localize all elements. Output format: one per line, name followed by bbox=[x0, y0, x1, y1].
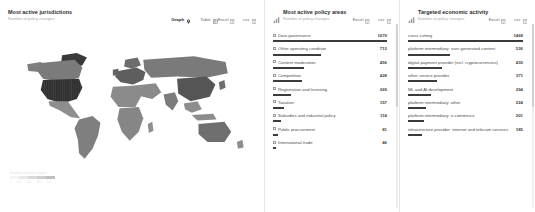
bar-row: Subsidies and industrial policy114 bbox=[273, 113, 387, 119]
map-svg bbox=[8, 32, 256, 182]
legend-square-icon bbox=[273, 34, 276, 37]
region-united-states bbox=[41, 79, 83, 104]
region-new-zealand bbox=[237, 140, 244, 149]
legend-swatch-0 bbox=[10, 176, 19, 179]
bar-fill bbox=[273, 147, 276, 149]
legend-square-icon bbox=[273, 114, 276, 117]
bar-item[interactable]: digital payment provider (incl. cryptocu… bbox=[408, 60, 523, 69]
bar-item[interactable]: Other operating condition713 bbox=[273, 46, 387, 55]
bar-item[interactable]: Registration and licensing269 bbox=[273, 87, 387, 96]
bar-value: 81 bbox=[382, 127, 387, 133]
bar-track bbox=[408, 40, 523, 42]
bar-label: digital payment provider (incl. cryptocu… bbox=[408, 60, 513, 66]
bar-label: platform intermediary: user-generated co… bbox=[408, 46, 513, 52]
policy-area-bar-list[interactable]: Data governance1679Other operating condi… bbox=[273, 33, 391, 212]
bar-label: Competition bbox=[273, 73, 377, 79]
bar-label: Registration and licensing bbox=[273, 87, 377, 93]
bar-fill bbox=[273, 67, 304, 69]
export-csv-button-map[interactable]: csv bbox=[243, 10, 256, 28]
legend-square-icon bbox=[273, 127, 276, 130]
csv-icon bbox=[523, 10, 528, 28]
bar-value: 430 bbox=[516, 60, 523, 66]
bar-label: cross cutting bbox=[408, 33, 510, 39]
view-toggle-group: Graph Table bbox=[171, 10, 217, 28]
bar-track bbox=[273, 67, 387, 69]
world-choropleth-map[interactable]: Number of policy changes 0 200 400 600 8… bbox=[8, 32, 256, 182]
bar-item[interactable]: cross cutting1468 bbox=[408, 33, 523, 42]
excel-icon bbox=[501, 10, 506, 28]
export-excel-label-map: Excel bbox=[218, 17, 229, 22]
region-north-africa bbox=[111, 86, 141, 107]
bar-value: 536 bbox=[516, 46, 523, 52]
tab-graph-view[interactable]: Graph bbox=[171, 10, 191, 28]
export-csv-button-policy[interactable]: csv bbox=[378, 10, 391, 28]
legend-square-icon bbox=[273, 74, 276, 77]
legend-title-row: Number of policy changes bbox=[10, 171, 55, 175]
region-subsaharan-africa bbox=[117, 107, 143, 141]
economic-activity-bar-list[interactable]: cross cutting1468platform intermediary: … bbox=[408, 33, 527, 212]
export-excel-button-econ[interactable]: Excel bbox=[489, 10, 506, 28]
bar-track bbox=[273, 40, 387, 42]
map-panel-header: Most active jurisdictions Number of poli… bbox=[8, 9, 256, 28]
bar-item[interactable]: Competition428 bbox=[273, 73, 387, 82]
bar-item[interactable]: Data governance1679 bbox=[273, 33, 387, 42]
panel-most-active-policy-areas: Most active policy areas Number of polic… bbox=[264, 0, 399, 212]
policy-export-group: Excel csv bbox=[353, 9, 391, 28]
bar-item[interactable]: platform intermediary: user-generated co… bbox=[408, 46, 523, 55]
legend-swatch-3 bbox=[37, 176, 46, 179]
bar-item[interactable]: ML and AI development294 bbox=[408, 87, 523, 96]
legend-swatch-4 bbox=[46, 176, 55, 179]
legend-tick-labels: 0 200 400 600 800 bbox=[10, 180, 55, 184]
export-csv-label-map: csv bbox=[243, 17, 250, 22]
bar-item[interactable]: platform intermediary: e-commerce201 bbox=[408, 113, 523, 122]
bar-item[interactable]: platform intermediary: other224 bbox=[408, 100, 523, 109]
bar-item[interactable]: Taxation157 bbox=[273, 100, 387, 109]
legend-tick-4: 800 bbox=[47, 180, 52, 184]
dashboard: Most active jurisdictions Number of poli… bbox=[0, 0, 535, 212]
export-csv-label-policy: csv bbox=[378, 17, 385, 22]
bar-fill bbox=[273, 40, 387, 42]
econ-scrollbar[interactable] bbox=[532, 24, 534, 208]
region-madagascar bbox=[148, 122, 154, 133]
legend-tick-1: 200 bbox=[17, 180, 22, 184]
bar-fill bbox=[408, 120, 424, 122]
bar-track bbox=[273, 94, 387, 96]
bar-label: other service provider bbox=[408, 73, 513, 79]
region-europe bbox=[115, 68, 145, 85]
bar-item[interactable]: other service provider371 bbox=[408, 73, 523, 82]
region-japan bbox=[219, 80, 226, 90]
bar-fill bbox=[273, 80, 302, 82]
legend-square-icon bbox=[273, 141, 276, 144]
tab-table-view[interactable]: Table bbox=[200, 10, 218, 28]
bar-track bbox=[273, 54, 387, 56]
region-mexico bbox=[49, 101, 81, 118]
econ-panel-title: Targeted economic activity bbox=[418, 9, 489, 16]
bar-row: Taxation157 bbox=[273, 100, 387, 106]
map-title-block: Most active jurisdictions Number of poli… bbox=[8, 9, 153, 22]
policy-scrollbar[interactable] bbox=[396, 24, 398, 208]
legend-swatch-1 bbox=[19, 176, 28, 179]
export-csv-button-econ[interactable]: csv bbox=[514, 10, 527, 28]
export-excel-button-policy[interactable]: Excel bbox=[353, 10, 370, 28]
legend-tick-0: 0 bbox=[10, 180, 12, 184]
econ-panel-header: Targeted economic activity Number of pol… bbox=[408, 9, 527, 28]
excel-icon bbox=[365, 10, 370, 28]
bar-label: infrastructure provider: internet and te… bbox=[408, 127, 513, 133]
policy-scrollbar-thumb[interactable] bbox=[396, 24, 398, 107]
bar-item[interactable]: infrastructure provider: internet and te… bbox=[408, 127, 523, 136]
bar-item[interactable]: Subsidies and industrial policy114 bbox=[273, 113, 387, 122]
export-excel-button-map[interactable]: Excel bbox=[218, 10, 235, 28]
bar-item[interactable]: Public procurement81 bbox=[273, 127, 387, 136]
bar-track bbox=[273, 80, 387, 82]
bar-track bbox=[273, 134, 387, 136]
bar-row: Data governance1679 bbox=[273, 33, 387, 39]
bar-item[interactable]: International trade46 bbox=[273, 140, 387, 149]
bar-row: infrastructure provider: internet and te… bbox=[408, 127, 523, 133]
legend-square-icon bbox=[273, 47, 276, 50]
bar-fill bbox=[408, 134, 422, 136]
econ-scrollbar-thumb[interactable] bbox=[532, 24, 534, 107]
bar-row: Competition428 bbox=[273, 73, 387, 79]
bar-item[interactable]: Content moderation456 bbox=[273, 60, 387, 69]
region-scandinavia bbox=[124, 57, 141, 68]
bar-row: other service provider371 bbox=[408, 73, 523, 79]
